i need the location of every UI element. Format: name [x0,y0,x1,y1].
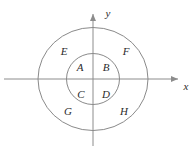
y-axis-arrowhead [90,14,96,21]
region-label-a: A [76,61,84,73]
region-label-h: H [119,105,129,117]
x-axis-arrowhead [171,76,178,82]
figure-container: x y A B C D E F G H [0,0,194,149]
x-axis-label: x [183,80,189,92]
region-label-e: E [60,45,68,57]
region-label-f: F [122,45,130,57]
region-label-g: G [64,105,72,117]
region-label-d: D [101,88,110,100]
region-label-c: C [77,88,85,100]
region-label-b: B [103,61,110,73]
y-axis-label: y [105,7,111,19]
coordinate-plane-figure: x y A B C D E F G H [0,0,194,149]
